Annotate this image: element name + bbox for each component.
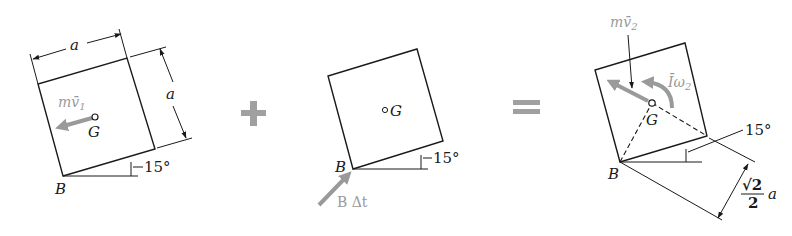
svg-text:√2: √2 xyxy=(742,176,762,194)
center-label: G xyxy=(88,123,100,141)
center-of-mass-marker xyxy=(649,100,655,106)
corner-label: B xyxy=(54,180,66,198)
dimension-top-label: a xyxy=(70,36,79,54)
plus-operator xyxy=(241,101,266,126)
center-label: G xyxy=(390,102,402,120)
svg-text:a: a xyxy=(768,185,777,203)
equals-operator xyxy=(513,100,540,114)
svg-text:2: 2 xyxy=(748,194,758,212)
panel-impulse: G 15° B B Δt xyxy=(319,49,460,210)
momentum-label-2: mv̄2 xyxy=(610,14,638,32)
momentum-leader xyxy=(628,35,632,88)
dimension-arrow-lower xyxy=(718,191,733,218)
angular-momentum-label: Īω2 xyxy=(667,73,691,92)
center-label: G xyxy=(646,111,658,129)
corner-label: B xyxy=(607,165,619,183)
dashed-line-g-to-corner xyxy=(652,103,707,136)
angle-label: 15° xyxy=(745,121,772,139)
panel-final-momentum: mv̄2 Īω2 G 15° B √2 2 a xyxy=(595,14,777,220)
extension-line-b xyxy=(620,162,722,220)
panel-initial-momentum: a a mv̄1 G 15° B xyxy=(30,29,192,198)
angle-label: 15° xyxy=(144,158,171,176)
dimension-side-label: a xyxy=(166,85,175,103)
impulse-label: B Δt xyxy=(337,194,368,210)
center-of-mass-marker xyxy=(382,107,387,112)
momentum-arrow-2 xyxy=(611,82,648,101)
corner-label: B xyxy=(334,158,346,176)
dimension-top: a xyxy=(30,29,127,84)
extension-line-corner xyxy=(709,138,755,162)
momentum-label-1: mv̄1 xyxy=(58,94,86,112)
center-of-mass-marker xyxy=(92,114,98,120)
impulse-momentum-diagram: a a mv̄1 G 15° B G 15° B xyxy=(0,0,792,236)
distance-label: √2 2 a xyxy=(741,176,777,212)
angle-label: 15° xyxy=(433,149,460,167)
